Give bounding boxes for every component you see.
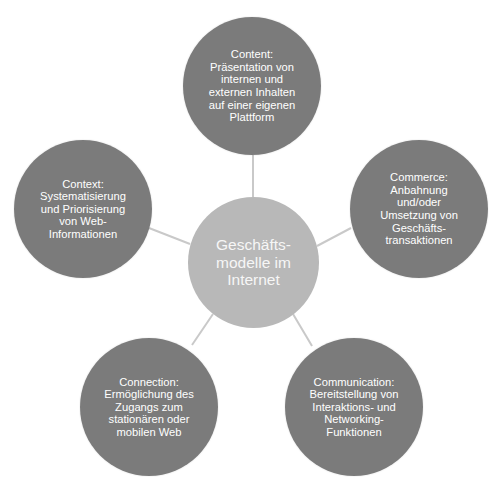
node-connection-label: Connection: Ermöglichung des Zugangs zum… (92, 376, 206, 439)
node-context-label: Context: Systematisierung und Priorisier… (28, 178, 138, 241)
node-content: Content: Präsentation von internen und e… (183, 17, 321, 155)
node-commerce: Commerce: Anbahnung und/oder Umsetzung v… (350, 140, 488, 278)
node-commerce-label: Commerce: Anbahnung und/oder Umsetzung v… (368, 171, 470, 247)
connector-commerce (317, 228, 351, 246)
center-node-label: Geschäfts- modelle im Internet (204, 236, 303, 289)
node-connection: Connection: Ermöglichung des Zugangs zum… (80, 338, 218, 476)
node-communication: Communication: Bereitstellung von Intera… (285, 338, 423, 476)
connector-communication (293, 314, 312, 346)
node-communication-label: Communication: Bereitstellung von Intera… (298, 376, 411, 439)
center-node: Geschäfts- modelle im Internet (188, 197, 319, 328)
node-context: Context: Systematisierung und Priorisier… (14, 140, 152, 278)
business-models-diagram: Geschäfts- modelle im Internet Content: … (0, 0, 501, 485)
connector-context (149, 228, 190, 244)
connector-connection (192, 314, 213, 345)
node-content-label: Content: Präsentation von internen und e… (197, 48, 307, 124)
